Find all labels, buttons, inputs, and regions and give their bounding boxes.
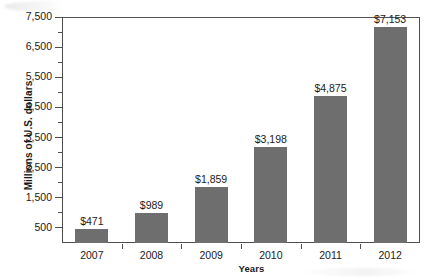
- bar-value-label: $3,198: [234, 134, 308, 145]
- y-axis-tick-label: 4,500: [0, 101, 52, 112]
- bar: [195, 187, 228, 243]
- y-axis-tick-label: 6,500: [0, 41, 52, 52]
- bar-chart: Millions of U.S. dollars 5001,5002,5003,…: [0, 0, 441, 279]
- x-axis-title: Years: [0, 263, 441, 274]
- y-axis-tick-major: [55, 197, 62, 198]
- x-axis-tick: [301, 244, 302, 249]
- bar-value-label: $4,875: [294, 83, 368, 94]
- y-axis-tick-major: [55, 17, 62, 18]
- x-axis-tick-label: 2010: [241, 250, 301, 261]
- y-axis-tick-label: 7,500: [0, 11, 52, 22]
- y-axis-tick-major: [55, 227, 62, 228]
- bar-value-label: $7,153: [353, 14, 427, 25]
- bar: [254, 147, 287, 243]
- y-axis-tick-label: 3,500: [0, 132, 52, 143]
- bar: [314, 96, 347, 243]
- x-axis-tick-label: 2008: [122, 250, 182, 261]
- x-axis-tick: [360, 244, 361, 249]
- bar: [75, 229, 108, 243]
- x-axis-tick: [241, 244, 242, 249]
- x-axis-tick-label: 2012: [360, 250, 420, 261]
- x-axis-tick-label: 2007: [62, 250, 122, 261]
- x-axis-tick-label: 2011: [301, 250, 361, 261]
- bar-value-label: $1,859: [174, 174, 248, 185]
- x-axis-tick: [181, 244, 182, 249]
- y-axis-tick-label: 5,500: [0, 71, 52, 82]
- y-axis-tick-label: 500: [0, 222, 52, 233]
- y-axis-tick-major: [55, 107, 62, 108]
- x-axis-tick-label: 2009: [181, 250, 241, 261]
- y-axis-tick-major: [55, 137, 62, 138]
- bar-value-label: $471: [55, 216, 129, 227]
- y-axis-tick-label: 1,500: [0, 192, 52, 203]
- bar-value-label: $989: [115, 200, 189, 211]
- y-axis-tick-label: 2,500: [0, 162, 52, 173]
- y-axis-tick-major: [55, 77, 62, 78]
- x-axis-tick: [122, 244, 123, 249]
- y-axis-tick-major: [55, 47, 62, 48]
- bar: [374, 27, 407, 243]
- bar: [135, 213, 168, 243]
- y-axis-tick-major: [55, 167, 62, 168]
